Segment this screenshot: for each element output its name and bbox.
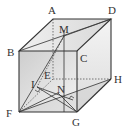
label-A: A xyxy=(48,5,56,16)
label-F: F xyxy=(6,108,12,119)
label-I: I xyxy=(31,79,35,90)
label-D: D xyxy=(108,5,116,16)
cube-diagram xyxy=(0,0,126,130)
label-M: M xyxy=(59,24,69,35)
label-H: H xyxy=(114,74,122,85)
label-G: G xyxy=(72,117,80,128)
label-N: N xyxy=(57,84,65,95)
label-B: B xyxy=(7,47,14,58)
label-C: C xyxy=(80,53,87,64)
label-E: E xyxy=(44,70,51,81)
